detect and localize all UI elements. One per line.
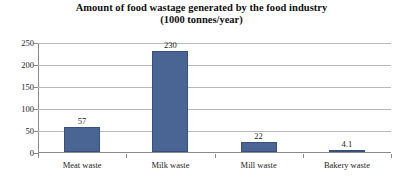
bar-value-label: 22: [239, 132, 279, 141]
x-axis-category-labels: Meat wasteMilk wasteMill wasteBakery was…: [38, 160, 391, 172]
x-axis-tick-mark: [126, 154, 127, 158]
chart-subtitle: (1000 tonnes/year): [0, 14, 403, 26]
gridline: [38, 43, 391, 44]
x-axis-category-label: Bakery waste: [303, 160, 391, 170]
bar-value-label: 4.1: [327, 140, 367, 149]
gridline: [38, 109, 391, 110]
x-axis-category-label: Milk waste: [126, 160, 214, 170]
bar-value-label: 57: [62, 117, 102, 126]
bar: [64, 127, 100, 152]
gridline: [38, 87, 391, 88]
y-axis-tick-marks: [0, 43, 38, 153]
x-axis-category-label: Mill waste: [215, 160, 303, 170]
x-axis-tick-mark: [303, 154, 304, 158]
x-axis-tick-mark: [38, 154, 39, 158]
x-axis-line: [38, 152, 391, 153]
x-axis-tick-mark: [215, 154, 216, 158]
chart-title: Amount of food wastage generated by the …: [0, 2, 403, 14]
plot-area: [38, 43, 391, 153]
x-axis-category-label: Meat waste: [38, 160, 126, 170]
bar: [152, 51, 188, 152]
bar-value-label: 230: [150, 41, 190, 50]
bar-chart: Amount of food wastage generated by the …: [0, 0, 403, 182]
x-axis-tick-mark: [391, 154, 392, 158]
gridline: [38, 65, 391, 66]
bar: [241, 142, 277, 152]
